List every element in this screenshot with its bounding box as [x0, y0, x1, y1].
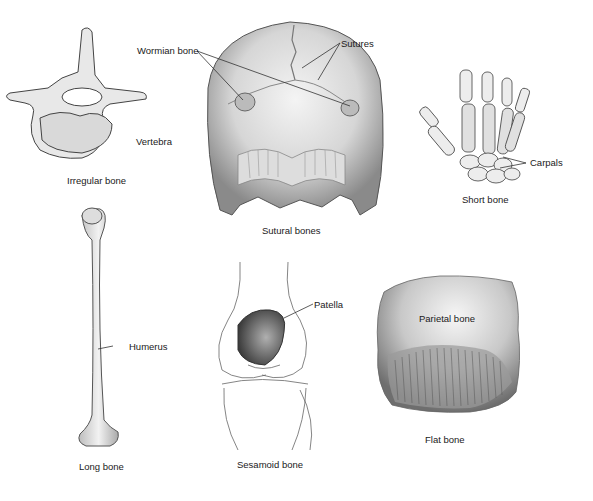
- vertebra-illustration: [7, 28, 147, 158]
- label-sutures: Sutures: [341, 39, 374, 49]
- humerus-illustration: [79, 208, 118, 446]
- patella-leader-line: [284, 304, 313, 318]
- caption-sutural-bones: Sutural bones: [262, 226, 321, 236]
- skull-illustration: [208, 22, 384, 215]
- diagram-artwork: [0, 0, 593, 501]
- caption-flat-bone: Flat bone: [425, 435, 465, 445]
- caption-short-bone: Short bone: [462, 195, 508, 205]
- label-parietal-bone: Parietal bone: [419, 314, 475, 324]
- patella-illustration: [238, 310, 285, 365]
- label-vertebra: Vertebra: [136, 137, 172, 147]
- label-wormian-bone: Wormian bone: [137, 46, 199, 56]
- label-humerus: Humerus: [129, 342, 168, 352]
- parietal-illustration: [377, 276, 519, 412]
- caption-irregular-bone: Irregular bone: [67, 176, 126, 186]
- bone-classification-diagram: Wormian bone Sutures Vertebra Irregular …: [0, 0, 593, 501]
- label-carpals: Carpals: [530, 158, 563, 168]
- caption-sesamoid-bone: Sesamoid bone: [237, 460, 303, 470]
- label-patella: Patella: [314, 300, 343, 310]
- caption-long-bone: Long bone: [79, 462, 124, 472]
- hand-illustration: [418, 70, 530, 183]
